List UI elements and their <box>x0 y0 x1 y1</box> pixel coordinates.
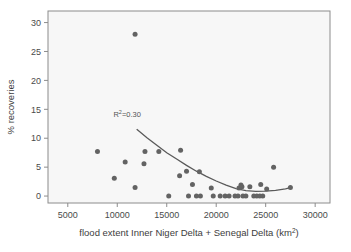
data-point <box>190 182 195 187</box>
data-point <box>123 159 128 164</box>
data-point <box>142 149 147 154</box>
x-axis-tick-label: 25000 <box>253 210 278 220</box>
data-point <box>186 194 191 199</box>
x-axis-title: flood extent Inner Niger Delta + Senegal… <box>79 227 298 239</box>
plot-area-background <box>48 11 330 203</box>
y-axis-tick-label: 15 <box>31 105 41 115</box>
data-point <box>156 149 161 154</box>
y-axis-tick-label: 10 <box>31 133 41 143</box>
x-axis-tick-label: 10000 <box>105 210 130 220</box>
data-point <box>260 194 265 199</box>
data-point <box>166 194 171 199</box>
data-point <box>211 194 216 199</box>
data-point <box>271 165 276 170</box>
data-point <box>288 185 293 190</box>
y-axis-tick-label: 20 <box>31 76 41 86</box>
data-point <box>243 194 248 199</box>
y-axis-tick-label: 5 <box>36 162 41 172</box>
data-point <box>178 148 183 153</box>
data-point <box>247 184 252 189</box>
y-axis-tick-label: 25 <box>31 47 41 57</box>
chart-canvas: 0510152025305000100001500020000250003000… <box>0 0 351 252</box>
scatter-plot-figure: 0510152025305000100001500020000250003000… <box>0 0 351 252</box>
data-point <box>133 32 138 37</box>
x-axis-tick-label: 15000 <box>154 210 179 220</box>
data-point <box>198 194 203 199</box>
data-point <box>95 149 100 154</box>
r-squared-label: R2=0.30 <box>113 109 140 119</box>
y-axis-tick-label: 30 <box>31 18 41 28</box>
data-point <box>235 194 240 199</box>
data-point <box>218 194 223 199</box>
x-axis-tick-label: 30000 <box>303 210 328 220</box>
x-axis-tick-label: 20000 <box>204 210 229 220</box>
data-point <box>239 184 244 189</box>
data-point <box>264 187 269 192</box>
data-point <box>112 176 117 181</box>
data-point <box>209 185 214 190</box>
data-point <box>227 194 232 199</box>
data-point <box>184 169 189 174</box>
y-axis-title: % recoveries <box>5 79 16 134</box>
data-point <box>177 173 182 178</box>
data-point <box>133 185 138 190</box>
data-point <box>141 161 146 166</box>
x-axis-tick-label: 5000 <box>58 210 78 220</box>
y-axis-tick-label: 0 <box>36 191 41 201</box>
data-point <box>197 169 202 174</box>
data-point <box>258 182 263 187</box>
